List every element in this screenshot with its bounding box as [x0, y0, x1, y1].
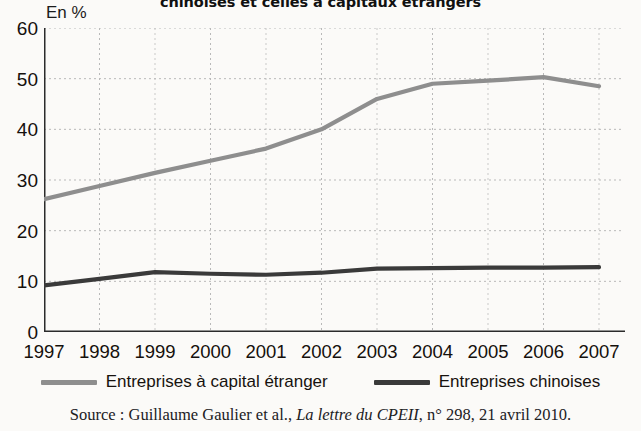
- legend-item-chinese-firms: Entreprises chinoises: [374, 372, 601, 392]
- legend-label: Entreprises à capital étranger: [106, 372, 328, 392]
- y-axis-tick-60: 60: [4, 19, 38, 38]
- chart-title: chinoises et celles à capitaux étrangers: [0, 0, 641, 13]
- y-axis-unit-label: En %: [46, 3, 87, 23]
- legend-swatch-foreign-capital: [41, 380, 97, 385]
- source-suffix: , n° 298, 21 avril 2010.: [419, 405, 571, 424]
- x-axis-tick-2001: 2001: [238, 340, 294, 364]
- x-axis-tick-1999: 1999: [127, 340, 183, 364]
- chart-legend: Entreprises à capital étrangerEntreprise…: [0, 369, 641, 395]
- x-axis-tick-2005: 2005: [460, 340, 516, 364]
- source-prefix: Source : Guillaume Gaulier et al.,: [70, 405, 296, 424]
- y-axis-tick-labels: 0102030405060: [0, 0, 38, 431]
- legend-label: Entreprises chinoises: [439, 372, 601, 392]
- plot-area: [44, 28, 625, 332]
- plot-svg: [44, 28, 625, 332]
- chart-figure: chinoises et celles à capitaux étrangers…: [0, 0, 641, 431]
- x-axis-tick-2006: 2006: [516, 340, 572, 364]
- y-axis-tick-40: 40: [4, 120, 38, 139]
- source-note: Source : Guillaume Gaulier et al., La le…: [0, 404, 641, 425]
- y-axis-tick-10: 10: [4, 272, 38, 291]
- x-axis-tick-1998: 1998: [72, 340, 128, 364]
- x-axis-tick-2003: 2003: [349, 340, 405, 364]
- y-axis-tick-20: 20: [4, 222, 38, 241]
- x-axis-tick-1997: 1997: [16, 340, 72, 364]
- legend-item-foreign-capital: Entreprises à capital étranger: [41, 372, 328, 392]
- x-axis-tick-labels: 1997199819992000200120022003200420052006…: [0, 340, 641, 366]
- y-axis-tick-50: 50: [4, 70, 38, 89]
- x-axis-tick-2004: 2004: [405, 340, 461, 364]
- x-axis-tick-2002: 2002: [294, 340, 350, 364]
- x-axis-tick-2007: 2007: [571, 340, 627, 364]
- x-axis-tick-2000: 2000: [183, 340, 239, 364]
- legend-swatch-chinese-firms: [374, 380, 430, 385]
- source-publication: La lettre du CPEII: [296, 405, 419, 424]
- y-axis-tick-30: 30: [4, 171, 38, 190]
